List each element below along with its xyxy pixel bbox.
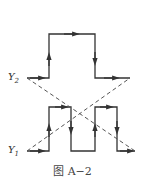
upper-waveform: [27, 34, 130, 78]
diagram: Y2 Y1 图 A−2: [0, 0, 145, 191]
label-y1: Y1: [8, 144, 19, 158]
lower-waveform: [27, 107, 135, 151]
label-y2: Y2: [8, 71, 19, 85]
dashed-lines: [27, 78, 135, 151]
figure-caption: 图 A−2: [0, 162, 145, 178]
